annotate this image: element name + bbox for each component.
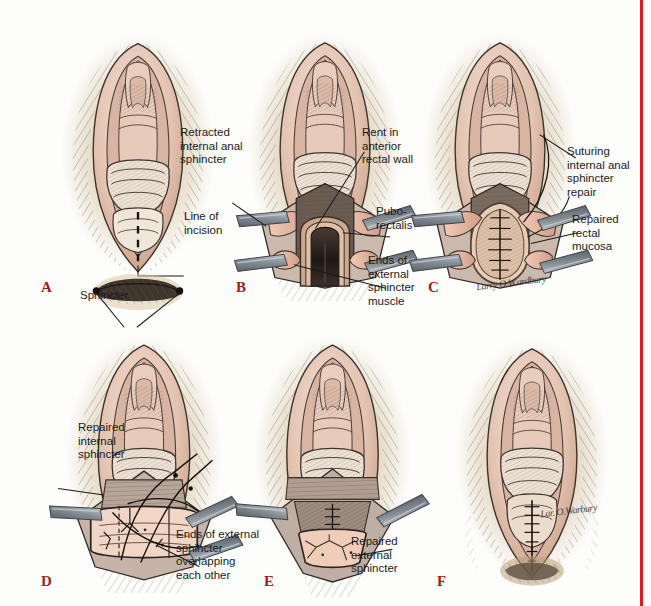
panel-letter-a: A xyxy=(41,279,52,296)
panel-letter-c: C xyxy=(428,279,439,296)
panel-c xyxy=(420,18,580,296)
panel-letter-e: E xyxy=(264,573,275,590)
illustration-page: A Line of incision Sphincter xyxy=(0,0,651,606)
label-rent-in-anterior-rectal-wall: Rent in anterior rectal wall xyxy=(362,126,413,167)
panel-f-illustration xyxy=(452,338,612,588)
label-repaired-rectal-mucosa: Repaired rectal mucosa xyxy=(572,213,619,254)
label-ends-of-external-sphincter-overlapping: Ends of external sphincter overlapping e… xyxy=(176,528,259,582)
anal-verge xyxy=(500,556,564,586)
panel-letter-d: D xyxy=(41,573,52,590)
repaired-rectal-mucosa-shape xyxy=(471,203,529,284)
label-pubo-rectalis: Pubo- rectalis xyxy=(376,205,412,232)
panel-f xyxy=(452,338,612,588)
panel-letter-f: F xyxy=(437,573,447,590)
label-ends-of-external-sphincter-muscle: Ends of external sphincter muscle xyxy=(368,254,415,308)
panel-c-illustration xyxy=(420,18,580,296)
label-repaired-external-sphincter: Repaired external sphincter xyxy=(351,535,398,576)
panel-letter-b: B xyxy=(236,279,247,296)
label-line-of-incision: Line of incision xyxy=(184,210,222,237)
label-suturing-internal-anal-sphincter-repair: Suturing internal anal sphincter repair xyxy=(567,145,630,199)
anal-canal xyxy=(300,217,349,286)
label-sphincter: Sphincter xyxy=(80,289,129,303)
completed-repair-field xyxy=(271,469,395,597)
page-margin-rule xyxy=(640,0,643,606)
